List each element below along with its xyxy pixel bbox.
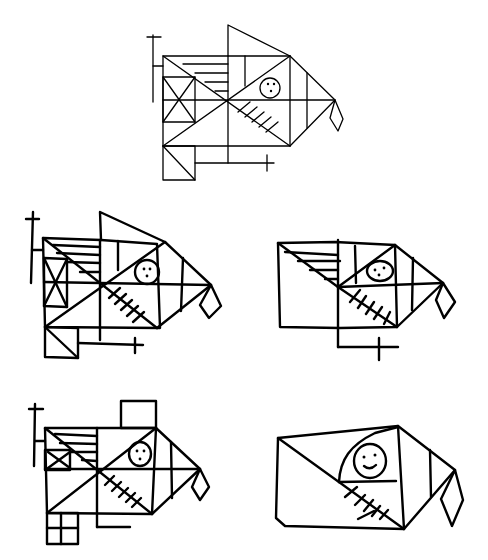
figure-canvas — [0, 0, 488, 560]
copy-3-figure — [29, 401, 209, 544]
copy-2-figure — [278, 240, 455, 360]
copy-4-figure — [276, 426, 463, 529]
copy-1-figure — [26, 212, 221, 358]
model-figure — [147, 25, 343, 180]
